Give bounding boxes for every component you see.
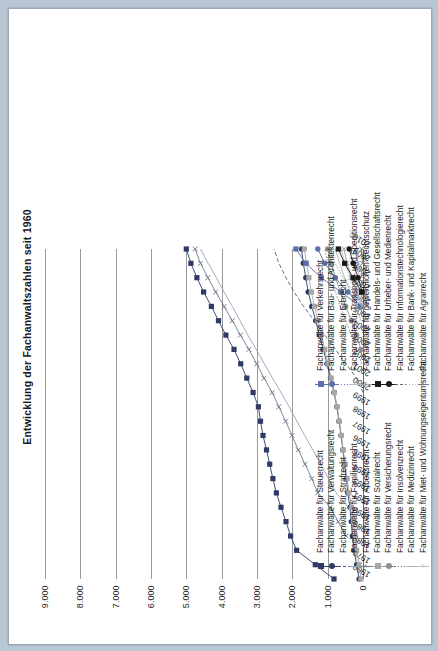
data-point-marker [302,246,307,251]
legend-item-label: Fachanwälte für Urheber- und Medienrecht [383,214,394,370]
data-point-marker [303,461,308,466]
data-point-marker [290,433,295,438]
data-point-marker [238,361,243,366]
legend-item-label: Fachanwälte für Agrarrecht [418,272,429,370]
data-point-marker [230,318,235,323]
page-title: Entwicklung der Fachanwaltszahlen seit 1… [21,17,33,637]
legend-key-icon [406,371,417,397]
legend-item[interactable]: ×Fachanwälte für gewerblichen Rechtsschu… [361,192,372,397]
legend-marker-circle-icon [386,381,392,387]
legend-item[interactable]: Fachanwälte für Bank- und Kapitalmarktre… [406,192,417,397]
data-point-marker [223,332,228,337]
legend-key-icon [383,371,394,397]
data-point-marker [256,404,261,409]
legend-key-icon [349,371,360,397]
data-point-marker [274,490,279,495]
y-axis-tick-label: 2.000 [287,585,297,608]
data-point-marker [303,260,308,265]
data-point-marker [194,275,199,280]
legend-item-label: Fachanwälte für Erbrecht [338,279,349,370]
data-point-marker [283,418,288,423]
data-point-marker [198,260,203,265]
legend-item-label: Fachanwälte für Steuerrecht [315,450,326,553]
y-axis-tick-label: 9.000 [40,585,50,608]
legend-item[interactable]: Fachanwälte für Erbrecht [338,192,349,397]
legend-key-icon [395,371,406,397]
legend-line-sample [338,566,349,567]
legend-item-label: Fachanwälte für Sozialrecht [372,451,383,552]
legend-marker-x-icon: × [420,563,426,568]
data-point-marker [309,476,314,481]
legend-marker-square-icon [318,563,324,569]
legend-key-icon: × [361,553,372,579]
legend-line-sample [406,566,417,567]
legend-item[interactable]: Fachanwälte für Handels- und Gesellschaf… [372,192,383,397]
data-point-marker [270,390,275,395]
legend-item-label: Fachanwälte für Verkehrsrecht [315,259,326,370]
legend-marker-x-icon: × [420,381,426,386]
data-point-marker [238,332,243,337]
legend-key-icon [395,553,406,579]
chart-paper: Entwicklung der Fachanwaltszahlen seit 1… [8,8,432,645]
legend-key-icon [315,371,326,397]
legend-line-sample [338,384,349,385]
legend-item-label: Fachanwälte für Strafrecht [338,456,349,552]
rotated-chart-canvas: Entwicklung der Fachanwaltszahlen seit 1… [15,17,425,637]
legend-marker-x-icon: × [363,381,369,386]
data-point-marker [270,476,275,481]
legend-item[interactable]: Fachanwälte für Verkehrsrecht [315,192,326,397]
data-point-marker [184,246,189,251]
page-root: Entwicklung der Fachanwaltszahlen seit 1… [0,0,438,651]
data-point-marker [209,303,214,308]
data-point-marker [260,432,265,437]
legend-item-label: Fachanwälte für Insolvenzrecht [395,439,406,552]
data-point-marker [294,547,299,552]
legend-marker-x-icon: × [363,563,369,568]
series-line [186,249,334,579]
legend-key-icon [338,371,349,397]
legend-item-label: Fachanwälte für Bank- und Kapitalmarktre… [406,207,417,371]
data-point-marker [246,347,251,352]
data-point-marker [222,303,227,308]
y-axis-tick-label: 3.000 [252,585,262,608]
legend-marker-circle-icon [386,563,392,569]
legend-item-label: Fachanwälte für gewerblichen Rechtsschut… [361,210,372,370]
legend-key-icon: × [418,553,429,579]
data-point-marker [231,346,236,351]
data-point-marker [213,289,218,294]
legend-line-sample [406,384,417,385]
legend-marker-circle-icon [329,381,335,387]
data-point-marker [278,504,283,509]
legend-item[interactable]: Fachanwälte für Transport- und Spedition… [349,192,360,397]
legend-item-label: Fachanwälte für Familienrecht [349,443,360,553]
data-point-marker [258,418,263,423]
data-point-marker [205,275,210,280]
data-point-marker [254,361,259,366]
legend-key-icon [326,553,337,579]
data-point-marker [277,404,282,409]
legend-item[interactable]: Fachanwälte für Bau- und Architektenrech… [326,192,337,397]
legend-key-icon [315,553,326,579]
legend-key-icon [349,553,360,579]
legend-item-label: Fachanwälte für Bau- und Architektenrech… [326,216,337,371]
legend-item-label: Fachanwälte für Informationstechnologier… [395,205,406,371]
y-axis-tick-label: 0 [358,585,368,590]
data-point-marker [201,289,206,294]
data-point-marker [264,447,269,452]
data-point-marker [251,389,256,394]
data-point-marker [244,375,249,380]
legend-key-icon: × [361,371,372,397]
y-axis-tick-label: 6.000 [146,585,156,608]
data-point-marker [309,289,314,294]
legend-line-sample [395,384,406,385]
legend-key-icon [406,553,417,579]
data-point-marker [283,519,288,524]
legend-item[interactable]: Fachanwälte für Urheber- und Medienrecht [383,192,394,397]
legend-item-label: Fachanwälte für Medizinrecht [406,446,417,553]
legend-item[interactable]: ×Fachanwälte für Agrarrecht [418,192,429,397]
legend-column: Fachanwälte für VerkehrsrechtFachanwälte… [315,192,429,397]
legend-item[interactable]: Fachanwälte für Informationstechnologier… [395,192,406,397]
data-point-marker [293,246,298,251]
data-point-marker [188,260,193,265]
legend-key-icon [372,553,383,579]
